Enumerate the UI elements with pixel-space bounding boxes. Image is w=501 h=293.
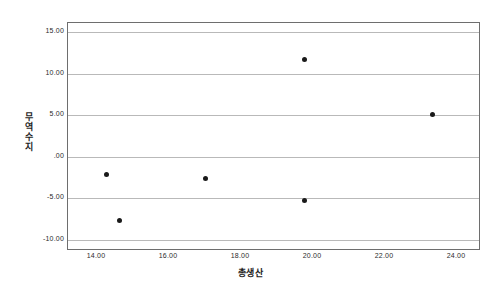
data-point [203, 176, 208, 181]
gridline-horizontal [68, 240, 479, 241]
y-axis-tick-labels: 15.0010.005.00.00-5.00-10.00 [20, 22, 64, 250]
x-axis-tick-label: 14.00 [87, 252, 106, 259]
x-axis-tick-label: 22.00 [375, 252, 394, 259]
x-axis-tick-labels: 14.0016.0018.0020.0022.0024.00 [67, 252, 480, 264]
gridline-horizontal [68, 115, 479, 116]
gridline-horizontal [68, 157, 479, 158]
data-point [117, 218, 122, 223]
y-axis-tick-label: 5.00 [50, 110, 64, 118]
data-point [104, 172, 109, 177]
y-axis-tick-label: .00 [54, 152, 64, 160]
x-axis-tick-label: 18.00 [231, 252, 250, 259]
gridline-horizontal [68, 74, 479, 75]
y-axis-tick-label: 10.00 [45, 69, 64, 77]
data-point [302, 57, 307, 62]
plot-area [67, 22, 480, 250]
x-axis-tick-label: 20.00 [303, 252, 322, 259]
x-axis-tick-label: 24.00 [447, 252, 466, 259]
y-axis-tick-label: -5.00 [47, 193, 64, 201]
data-point [302, 198, 307, 203]
y-axis-tick-label: 15.00 [45, 27, 64, 35]
x-axis-title: 총생산 [0, 266, 501, 279]
gridline-horizontal [68, 32, 479, 33]
x-axis-tick-label: 16.00 [159, 252, 178, 259]
scatter-plot-screenshot: 무역수지 15.0010.005.00.00-5.00-10.00 14.001… [0, 0, 501, 293]
y-axis-tick-label: -10.00 [43, 235, 64, 243]
data-point [430, 112, 435, 117]
gridline-horizontal [68, 198, 479, 199]
